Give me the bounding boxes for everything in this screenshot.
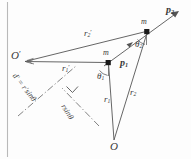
vector-r1prime-line [25, 62, 107, 63]
label-momentum-p1: p1 [120, 58, 128, 68]
angular-momentum-figure: O′ O m m p1 p2 r1 r2 r1′ r2′ θ1 θ2 d′ = … [0, 0, 191, 159]
label-radius-r1: r1 [104, 95, 110, 104]
label-origin-o-prime: O′ [11, 50, 21, 61]
label-mass-m1: m [103, 49, 109, 57]
particle-marker-m1 [106, 60, 111, 65]
label-mass-m2: m [141, 18, 147, 26]
diagram-canvas [0, 0, 191, 159]
right-angle-marker [67, 87, 79, 93]
label-angle-theta1: θ1 [97, 72, 104, 81]
label-radius-r1-prime: r1′ [62, 64, 70, 73]
label-radius-r2-prime: r2′ [84, 29, 92, 38]
label-radius-r2: r2 [130, 88, 136, 97]
particle-marker-m2 [144, 29, 149, 34]
label-origin-o: O [110, 141, 118, 152]
p1-arrowhead [127, 42, 134, 47]
label-angle-theta2: θ2 [135, 40, 142, 49]
label-momentum-p2: p2 [166, 5, 174, 15]
